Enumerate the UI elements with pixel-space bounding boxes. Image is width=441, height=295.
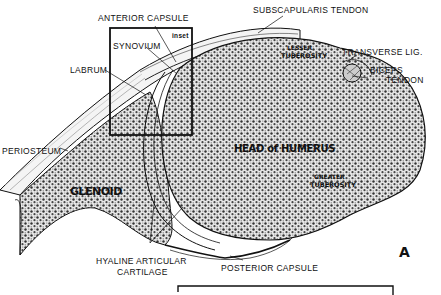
label-lesser-tuberosity-1: LESSER <box>287 45 312 51</box>
label-head-of-humerus: HEAD of HUMERUS <box>234 144 335 154</box>
label-posterior-capsule: POSTERIOR CAPSULE <box>221 264 318 273</box>
label-greater-tuberosity-1: GREATER <box>314 174 345 180</box>
shoulder-diagram: ANTERIOR CAPSULE SUBSCAPULARIS TENDON in… <box>0 0 441 295</box>
biceps-tendon-shape <box>343 64 361 82</box>
label-labrum: LABRUM <box>70 66 107 75</box>
label-greater-tuberosity-2: TUBEROSITY <box>310 182 356 189</box>
label-transverse-lig: TRANSVERSE LIG. <box>342 48 423 57</box>
label-subscapularis-tendon: SUBSCAPULARIS TENDON <box>253 6 368 15</box>
label-biceps-tendon: TENDON <box>386 76 424 85</box>
label-hyaline-articular: HYALINE ARTICULAR <box>96 257 187 266</box>
label-synovium: SYNOVIUM <box>113 42 161 51</box>
label-periosteum: PERIOSTEUM <box>2 147 61 156</box>
label-cartilage: CARTILAGE <box>117 268 168 277</box>
label-inset: inset <box>172 33 189 40</box>
diagram-artwork <box>0 0 441 295</box>
caption-box-edge <box>178 286 393 295</box>
label-anterior-capsule: ANTERIOR CAPSULE <box>98 14 189 23</box>
label-biceps: BICEPS <box>370 66 403 75</box>
label-glenoid: GLENOID <box>70 186 122 197</box>
label-lesser-tuberosity-2: TUBEROSITY <box>281 53 327 60</box>
figure-letter: A <box>399 245 410 259</box>
